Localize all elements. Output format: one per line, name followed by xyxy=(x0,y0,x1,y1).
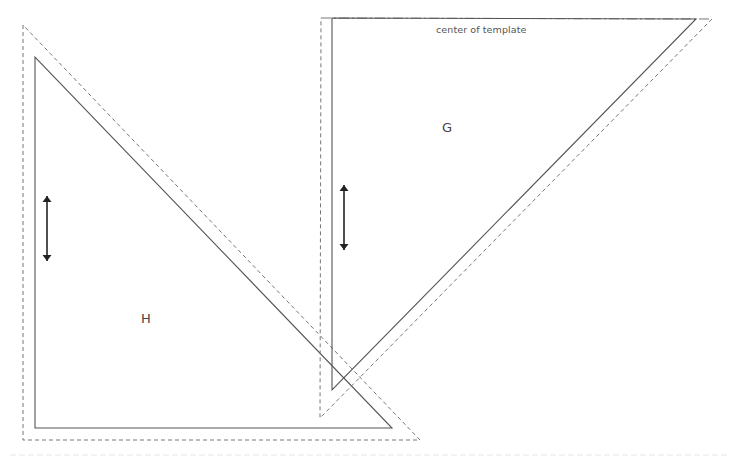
piece-g-seam-allowance-side xyxy=(320,18,712,418)
piece-h-cut-line xyxy=(35,57,392,428)
piece-h-seam-allowance-line xyxy=(23,25,420,440)
piece-g xyxy=(320,18,712,418)
piece-g-cut-line xyxy=(332,18,696,390)
piece-g-label: G xyxy=(442,120,452,135)
piece-h xyxy=(23,25,420,440)
piece-h-label: H xyxy=(141,311,151,326)
center-of-template-note: center of template xyxy=(436,24,526,35)
pattern-diagram xyxy=(0,0,729,462)
